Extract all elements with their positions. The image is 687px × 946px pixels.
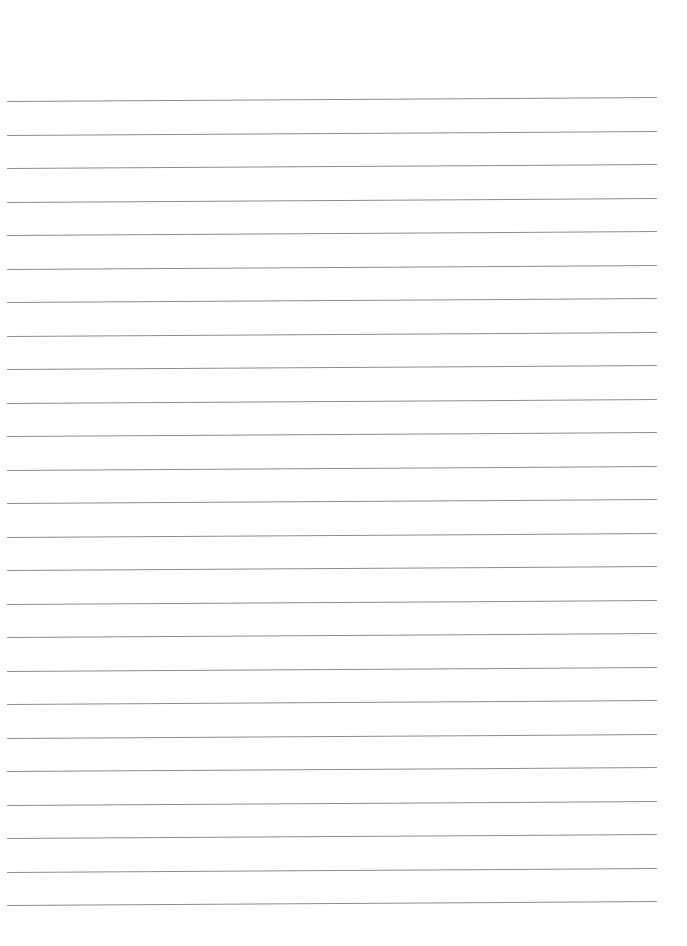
ruled-line	[7, 97, 657, 102]
ruled-line	[7, 298, 657, 303]
lined-paper-page	[0, 0, 687, 946]
ruled-line	[7, 265, 657, 270]
ruled-line	[7, 901, 657, 906]
ruled-line	[7, 231, 657, 236]
ruled-line	[7, 432, 657, 437]
ruled-line	[7, 164, 657, 169]
ruled-line	[7, 399, 657, 404]
ruled-line	[7, 600, 657, 605]
ruled-line	[7, 332, 657, 337]
ruled-line	[7, 667, 657, 672]
ruled-line	[7, 198, 657, 203]
ruled-line	[7, 868, 657, 873]
ruled-line	[7, 131, 657, 136]
ruled-line	[7, 566, 657, 571]
ruled-line	[7, 466, 657, 471]
ruled-line	[7, 499, 657, 504]
ruled-line	[7, 633, 657, 638]
ruled-line	[7, 734, 657, 739]
ruled-line	[7, 767, 657, 772]
ruled-line	[7, 834, 657, 839]
ruled-line	[7, 533, 657, 538]
ruled-line	[7, 365, 657, 370]
ruled-line	[7, 700, 657, 705]
ruled-line	[7, 801, 657, 806]
